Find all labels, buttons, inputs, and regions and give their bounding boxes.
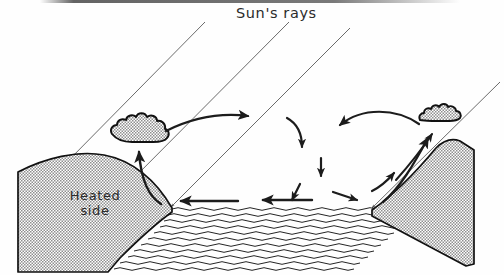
left-cloud <box>111 113 169 142</box>
heated-side-label: Heated side <box>60 188 130 218</box>
updraft-right-arrow-1-icon <box>372 173 394 191</box>
right-hill <box>372 140 474 266</box>
heated-side-label-line1: Heated <box>60 188 130 203</box>
sun-ray-3-icon <box>171 28 350 207</box>
sea-breeze-diagram-svg <box>0 0 504 275</box>
sun-ray-2-icon <box>124 22 289 188</box>
surface-divergence-arrow-icon <box>333 192 357 200</box>
circulation-arrows-group <box>139 112 432 204</box>
page-title: Sun's rays <box>236 5 317 21</box>
subsidence-arrow-1-icon <box>287 118 302 147</box>
outflow-left-arrow-icon <box>166 115 248 131</box>
subsidence-arrow-3-icon <box>292 184 300 200</box>
right-cloud <box>419 104 460 121</box>
diagram-canvas: Sun's rays Heated side <box>0 0 504 275</box>
outflow-right-arrow-icon <box>340 112 419 125</box>
heated-side-label-line2: side <box>60 203 130 218</box>
